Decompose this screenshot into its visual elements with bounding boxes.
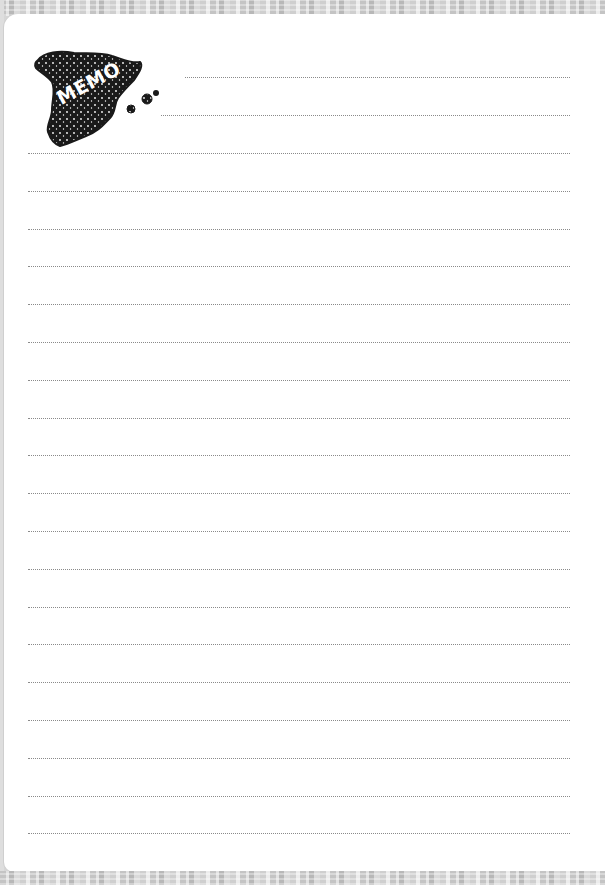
writing-line[interactable]: [28, 229, 570, 230]
writing-line[interactable]: [28, 569, 570, 570]
writing-line[interactable]: [28, 418, 570, 419]
writing-line[interactable]: [28, 833, 570, 834]
spain-map-icon: [30, 40, 162, 152]
writing-line-short-2[interactable]: [161, 115, 570, 116]
writing-line[interactable]: [28, 153, 570, 154]
writing-line-short-1[interactable]: [185, 77, 570, 78]
writing-line[interactable]: [28, 607, 570, 608]
writing-line[interactable]: [28, 758, 570, 759]
writing-line[interactable]: [28, 796, 570, 797]
memo-sheet: MEMO: [4, 14, 605, 872]
writing-line[interactable]: [28, 191, 570, 192]
decorative-bottom-border: [0, 871, 605, 885]
writing-line[interactable]: [28, 493, 570, 494]
writing-line[interactable]: [28, 342, 570, 343]
writing-line[interactable]: [28, 644, 570, 645]
writing-line[interactable]: [28, 380, 570, 381]
writing-line[interactable]: [28, 266, 570, 267]
writing-line[interactable]: [28, 455, 570, 456]
memo-logo: MEMO: [30, 40, 162, 152]
writing-line[interactable]: [28, 531, 570, 532]
writing-line[interactable]: [28, 720, 570, 721]
writing-line[interactable]: [28, 682, 570, 683]
writing-line[interactable]: [28, 304, 570, 305]
